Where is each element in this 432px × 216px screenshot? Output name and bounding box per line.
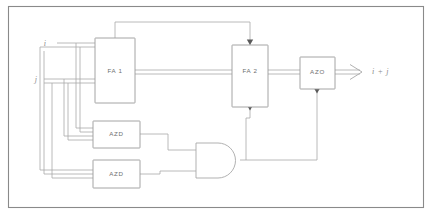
signal-label-group: i j i + j: [34, 39, 389, 84]
label-input-j: j: [34, 75, 38, 84]
wire-azd2-to-and: [140, 171, 196, 174]
wire-and-to-fa2: [246, 107, 250, 160]
block-azd-upper-label: AZD: [109, 130, 123, 137]
block-azd-lower-label: AZD: [109, 170, 123, 177]
block-azo-label: AZO: [310, 68, 325, 75]
and-gate[interactable]: [196, 143, 236, 178]
block-group: FA 1 FA 2 AZO AZD AZD: [93, 38, 335, 188]
block-fa2-label: FA 2: [242, 67, 257, 74]
arrowhead-fa2-top: [247, 40, 253, 46]
block-diagram-svg: FA 1 FA 2 AZO AZD AZD i j i + j: [0, 0, 432, 216]
block-fa2[interactable]: [232, 45, 268, 107]
block-fa1-label: FA 1: [107, 67, 122, 74]
wire-azd1-to-and: [140, 134, 196, 150]
label-output-sum: i + j: [372, 67, 389, 76]
label-input-i: i: [44, 39, 47, 48]
arrowhead-output: [350, 65, 362, 80]
figure-root: FA 1 FA 2 AZO AZD AZD i j i + j: [0, 0, 432, 216]
